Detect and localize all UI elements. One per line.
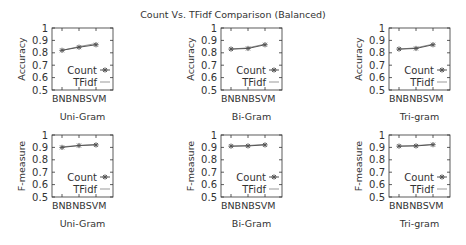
y-tick-label: 0.9 <box>369 35 385 46</box>
legend-star-icon <box>271 174 276 179</box>
count-marker-icon <box>76 45 81 50</box>
chart-figure: Count Vs. TFidf Comparison (Balanced) 0.… <box>0 0 466 245</box>
y-tick-label: 0.9 <box>201 35 217 46</box>
x-axis-label: Tri-gram <box>399 218 439 229</box>
y-tick-label: 1 <box>42 23 48 34</box>
x-tick-label: BNB <box>221 200 241 211</box>
y-tick-label: 0.7 <box>201 167 217 178</box>
chart-title: Count Vs. TFidf Comparison (Balanced) <box>140 9 326 20</box>
x-tick-label: NB <box>72 200 86 211</box>
x-axis-label: Bi-Gram <box>232 111 271 122</box>
y-axis-label: F-measure <box>353 141 364 191</box>
y-tick-label: 0.6 <box>201 72 217 83</box>
legend-star-icon <box>439 67 444 72</box>
x-tick-label: SVM <box>86 200 107 211</box>
subplot-accuracy-tri-gram: 0.50.60.70.80.91BNBNBSVMAccuracyTri-gram… <box>353 23 450 123</box>
y-tick-label: 0.8 <box>369 154 385 165</box>
legend-label-tfidf: TFidf <box>72 77 97 88</box>
y-tick-label: 0.9 <box>32 35 48 46</box>
y-axis-label: F-measure <box>16 141 27 191</box>
legend-label-count: Count <box>236 172 266 183</box>
y-tick-label: 1 <box>42 130 48 141</box>
y-tick-label: 0.7 <box>32 167 48 178</box>
y-tick-label: 1 <box>379 23 385 34</box>
legend-label-tfidf: TFidf <box>409 77 434 88</box>
count-marker-icon <box>93 142 98 147</box>
y-tick-label: 0.8 <box>201 47 217 58</box>
x-axis-label: Uni-Gram <box>60 111 106 122</box>
count-marker-icon <box>413 46 418 51</box>
y-tick-label: 0.5 <box>201 85 217 96</box>
legend-label-count: Count <box>67 172 97 183</box>
legend-label-count: Count <box>404 172 434 183</box>
subplot-accuracy-uni-gram: 0.50.60.70.80.91BNBNBSVMAccuracyUni-Gram… <box>16 23 113 123</box>
y-tick-label: 0.6 <box>32 72 48 83</box>
x-tick-label: NB <box>241 200 255 211</box>
y-tick-label: 0.7 <box>32 60 48 71</box>
subplot-accuracy-bi-gram: 0.50.60.70.80.91BNBNBSVMAccuracyBi-GramC… <box>185 23 282 123</box>
y-tick-label: 0.8 <box>369 47 385 58</box>
count-marker-icon <box>262 142 267 147</box>
x-tick-label: SVM <box>86 93 107 104</box>
legend-label-tfidf: TFidf <box>409 184 434 195</box>
count-marker-icon <box>413 143 418 148</box>
legend-label-count: Count <box>404 65 434 76</box>
count-marker-icon <box>59 48 64 53</box>
count-marker-icon <box>59 145 64 150</box>
y-tick-label: 0.7 <box>369 60 385 71</box>
count-marker-icon <box>76 143 81 148</box>
y-tick-label: 0.9 <box>32 142 48 153</box>
y-tick-label: 0.9 <box>201 142 217 153</box>
x-tick-label: NB <box>409 93 423 104</box>
count-marker-icon <box>228 144 233 149</box>
subplot-f-measure-uni-gram: 0.50.60.70.80.91BNBNBSVMF-measureUni-Gra… <box>16 130 113 230</box>
x-tick-label: SVM <box>255 93 276 104</box>
count-marker-icon <box>262 42 267 47</box>
x-tick-label: BNB <box>389 93 409 104</box>
y-tick-label: 0.5 <box>201 192 217 203</box>
y-axis-label: Accuracy <box>16 37 27 81</box>
x-tick-label: NB <box>72 93 86 104</box>
x-axis-label: Tri-gram <box>399 111 439 122</box>
y-tick-label: 0.9 <box>369 142 385 153</box>
y-tick-label: 0.6 <box>369 72 385 83</box>
legend-label-count: Count <box>67 65 97 76</box>
count-marker-icon <box>430 142 435 147</box>
y-tick-label: 0.6 <box>201 179 217 190</box>
legend-star-icon <box>102 174 107 179</box>
y-tick-label: 0.5 <box>369 192 385 203</box>
y-axis-label: Accuracy <box>353 37 364 81</box>
x-tick-label: SVM <box>423 93 444 104</box>
x-tick-label: SVM <box>423 200 444 211</box>
count-marker-icon <box>396 46 401 51</box>
y-tick-label: 0.8 <box>32 154 48 165</box>
x-axis-label: Bi-Gram <box>232 218 271 229</box>
y-tick-label: 0.7 <box>369 167 385 178</box>
x-tick-label: BNB <box>52 93 72 104</box>
y-tick-label: 0.5 <box>369 85 385 96</box>
y-axis-label: Accuracy <box>185 37 196 81</box>
x-axis-label: Uni-Gram <box>60 218 106 229</box>
y-tick-label: 0.6 <box>32 179 48 190</box>
count-marker-icon <box>228 46 233 51</box>
y-tick-label: 1 <box>211 130 217 141</box>
count-marker-icon <box>430 42 435 47</box>
y-tick-label: 0.5 <box>32 192 48 203</box>
y-tick-label: 1 <box>379 130 385 141</box>
count-marker-icon <box>93 42 98 47</box>
legend-label-tfidf: TFidf <box>241 184 266 195</box>
legend-star-icon <box>102 67 107 72</box>
count-marker-icon <box>245 143 250 148</box>
x-tick-label: BNB <box>389 200 409 211</box>
subplot-f-measure-tri-gram: 0.50.60.70.80.91BNBNBSVMF-measureTri-gra… <box>353 130 450 230</box>
x-tick-label: SVM <box>255 200 276 211</box>
x-tick-label: BNB <box>221 93 241 104</box>
legend-star-icon <box>271 67 276 72</box>
y-tick-label: 1 <box>211 23 217 34</box>
x-tick-label: NB <box>409 200 423 211</box>
legend-label-tfidf: TFidf <box>72 184 97 195</box>
x-tick-label: BNB <box>52 200 72 211</box>
y-tick-label: 0.7 <box>201 60 217 71</box>
count-marker-icon <box>245 46 250 51</box>
legend-star-icon <box>439 174 444 179</box>
